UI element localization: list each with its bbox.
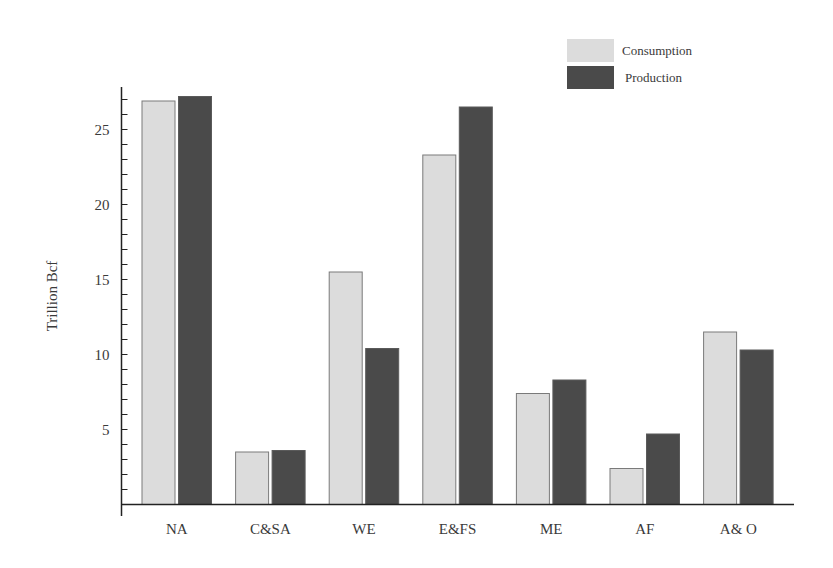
bar-consumption xyxy=(236,452,269,505)
legend-swatch-consumption xyxy=(567,39,614,62)
bar-production xyxy=(740,350,773,505)
x-tick-labels: NAC&SAWEE&FSMEAFA& O xyxy=(166,521,757,537)
bar-production xyxy=(366,349,399,505)
bar-consumption xyxy=(704,332,737,505)
legend-label-production: Production xyxy=(625,70,683,85)
bar-group-na xyxy=(142,97,212,505)
y-ticks: 510152025 xyxy=(95,100,128,490)
x-tick-label: NA xyxy=(166,521,188,537)
bar-consumption xyxy=(516,394,549,505)
bar-consumption xyxy=(142,101,175,505)
bar-production xyxy=(272,451,305,505)
legend-label-consumption: Consumption xyxy=(622,43,693,58)
x-tick-label: C&SA xyxy=(250,521,291,537)
bar-consumption xyxy=(329,272,362,505)
x-tick-label: AF xyxy=(635,521,654,537)
y-tick-label: 5 xyxy=(102,422,110,438)
x-tick-label: WE xyxy=(352,521,375,537)
y-tick-label: 25 xyxy=(95,122,110,138)
bars xyxy=(142,97,773,505)
y-tick-label: 20 xyxy=(95,197,110,213)
bar-group-ao xyxy=(704,332,774,505)
bar-production xyxy=(179,97,212,505)
x-tick-label: E&FS xyxy=(439,521,477,537)
bar-group-efs xyxy=(423,107,493,505)
x-tick-label: ME xyxy=(540,521,563,537)
legend: ConsumptionProduction xyxy=(567,39,693,89)
axes xyxy=(121,87,794,516)
y-tick-label: 10 xyxy=(95,347,110,363)
bar-production xyxy=(459,107,492,505)
bar-consumption xyxy=(423,155,456,505)
bar-production xyxy=(647,434,680,505)
bar-group-we xyxy=(329,272,399,505)
bar-consumption xyxy=(610,469,643,505)
bar-group-af xyxy=(610,434,680,505)
y-tick-label: 15 xyxy=(95,272,110,288)
bar-group-csa xyxy=(236,451,306,505)
x-tick-label: A& O xyxy=(720,521,757,537)
bar-chart: ConsumptionProduction 510152025 NAC&SAWE… xyxy=(0,0,833,568)
bar-production xyxy=(553,380,586,505)
y-axis-label: Trillion Bcf xyxy=(44,261,60,332)
legend-swatch-production xyxy=(567,66,614,89)
bar-group-me xyxy=(516,380,586,505)
